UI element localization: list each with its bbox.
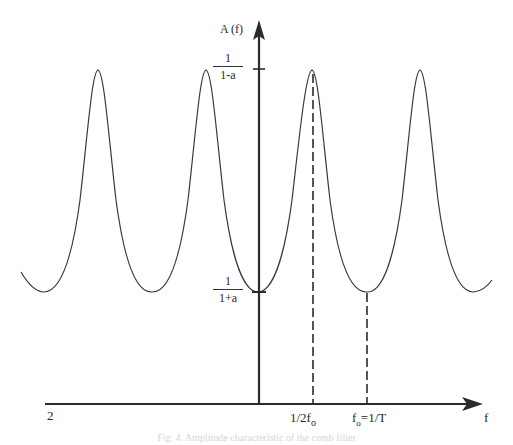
diagram-canvas <box>0 0 513 445</box>
x-tick-label-f0: fo=1/T <box>352 411 386 428</box>
figure-caption: Fig. 4. Amplitude characteristic of the … <box>0 432 513 443</box>
y-tick-min-numerator: 1 <box>213 275 243 290</box>
y-axis-label: A (f) <box>220 23 243 35</box>
x-axis-label: f <box>484 411 488 424</box>
x-tick-half-f0-main: 1/2f <box>290 410 311 425</box>
x-tick-half-f0-sub: o <box>311 417 316 428</box>
y-tick-label-min: 1 1+a <box>213 275 243 304</box>
y-tick-max-numerator: 1 <box>213 52 243 67</box>
x-tick-label-half-f0: 1/2fo <box>290 411 316 428</box>
y-tick-min-denominator: 1+a <box>213 290 243 304</box>
amplitude-curve <box>21 70 492 292</box>
origin-label: 2 <box>47 409 54 422</box>
y-tick-max-denominator: 1-a <box>213 67 243 81</box>
x-tick-f0-post: =1/T <box>361 410 386 425</box>
y-tick-label-max: 1 1-a <box>213 52 243 81</box>
